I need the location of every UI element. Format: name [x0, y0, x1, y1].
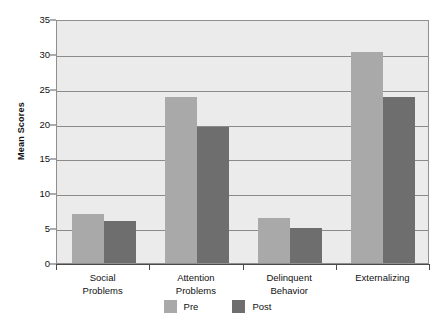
x-axis-tick-mark	[243, 264, 244, 270]
y-axis-tick-label: 25	[24, 85, 50, 95]
bar-pre-1	[165, 97, 197, 263]
bar-post-1	[197, 127, 229, 263]
x-axis-category-label-line: Delinquent	[243, 272, 336, 285]
y-axis-tick-label: 10	[24, 190, 50, 200]
y-axis-tick-mark	[50, 54, 56, 55]
y-axis-tick-label: 20	[24, 120, 50, 130]
legend-item-pre: Pre	[164, 300, 199, 313]
y-axis-tick-label: 0	[24, 259, 50, 269]
x-axis-category-label-line: Behavior	[243, 285, 336, 298]
legend-item-post: Post	[232, 300, 271, 313]
y-axis-tick-mark	[50, 124, 56, 125]
legend-swatch-icon	[232, 300, 245, 313]
bar-post-2	[290, 228, 322, 263]
y-axis-tick-mark	[50, 159, 56, 160]
y-axis-tick-label: 30	[24, 50, 50, 60]
bar-pre-0	[72, 214, 104, 263]
x-axis-category-label: SocialProblems	[56, 272, 149, 297]
bar-pre-2	[258, 218, 290, 263]
y-axis-tick-label: 15	[24, 155, 50, 165]
x-axis-tick-mark	[429, 264, 430, 270]
x-axis-category-label: DelinquentBehavior	[243, 272, 336, 297]
x-axis-category-label-line: Problems	[56, 285, 149, 298]
x-axis-tick-mark	[336, 264, 337, 270]
x-axis-category-label: Externalizing	[336, 272, 429, 285]
legend-label: Post	[252, 302, 271, 312]
x-axis-category-label-line: Problems	[149, 285, 242, 298]
y-axis-tick-label: 5	[24, 224, 50, 234]
y-axis-tick-mark	[50, 194, 56, 195]
x-axis-tick-mark	[149, 264, 150, 270]
y-axis-tick-mark	[50, 229, 56, 230]
legend-swatch-icon	[164, 300, 177, 313]
bar-chart-figure: Mean Scores 05101520253035 SocialProblem…	[0, 0, 435, 322]
y-axis-tick-mark	[50, 20, 56, 21]
y-axis-tick-mark	[50, 89, 56, 90]
x-axis-category-label-line: Social	[56, 272, 149, 285]
x-axis-tick-mark	[56, 264, 57, 270]
plot-area	[56, 20, 429, 264]
bar-post-0	[104, 221, 136, 263]
legend-label: Pre	[184, 302, 199, 312]
y-axis-tick-label: 35	[24, 15, 50, 25]
chart-legend: PrePost	[0, 300, 435, 313]
y-axis-tick-labels: 05101520253035	[24, 20, 50, 264]
bars-layer	[57, 21, 428, 263]
bar-post-3	[383, 97, 415, 263]
x-axis-category-label-line: Externalizing	[336, 272, 429, 285]
bar-pre-3	[351, 52, 383, 263]
x-axis-category-label: AttentionProblems	[149, 272, 242, 297]
x-axis-category-label-line: Attention	[149, 272, 242, 285]
